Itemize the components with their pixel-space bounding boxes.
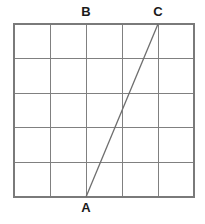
vertex-label-a: A	[75, 201, 97, 214]
geometry-figure: B C A	[0, 0, 205, 224]
grid-horizontal-lines	[14, 59, 194, 163]
vertex-label-b: B	[75, 5, 97, 18]
grid-outer-border	[14, 24, 194, 197]
grid-vertical-lines	[50, 24, 158, 197]
vertex-label-c: C	[147, 5, 169, 18]
grid-border-rect	[14, 24, 194, 197]
grid-diagram-canvas	[0, 0, 205, 224]
